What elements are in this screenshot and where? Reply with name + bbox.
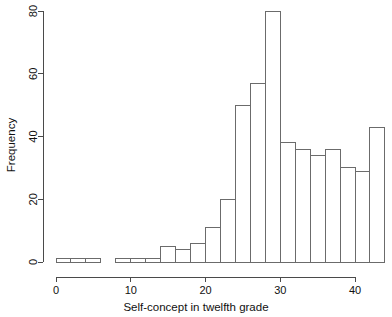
histogram-bar bbox=[86, 259, 101, 262]
histogram-bar bbox=[176, 249, 191, 262]
histogram-bar bbox=[250, 83, 265, 262]
histogram-bar bbox=[295, 149, 310, 262]
histogram-bar bbox=[355, 171, 370, 262]
histogram-bar bbox=[370, 127, 385, 262]
y-axis-title: Frequency bbox=[5, 118, 17, 173]
histogram-bar bbox=[280, 143, 295, 262]
y-tick-label: 20 bbox=[27, 193, 39, 205]
histogram-svg: 020406080 010203040 Self-concept in twel… bbox=[0, 0, 392, 317]
histogram-bar bbox=[310, 155, 325, 262]
histogram-bar bbox=[161, 246, 176, 262]
bars-layer bbox=[56, 11, 385, 262]
y-axis-ticks: 020406080 bbox=[27, 5, 43, 265]
y-tick-label: 40 bbox=[27, 130, 39, 142]
histogram-bar bbox=[71, 259, 86, 262]
x-axis-ticks: 010203040 bbox=[53, 277, 361, 296]
histogram-bar bbox=[220, 199, 235, 262]
y-tick-label: 80 bbox=[27, 5, 39, 17]
histogram-bar bbox=[235, 105, 250, 262]
x-tick-label: 10 bbox=[125, 284, 137, 296]
histogram-bar bbox=[325, 149, 340, 262]
x-axis-title: Self-concept in twelfth grade bbox=[123, 301, 268, 313]
histogram-bar bbox=[340, 168, 355, 262]
x-tick-label: 0 bbox=[53, 284, 59, 296]
histogram-bar bbox=[206, 227, 221, 262]
histogram-bar bbox=[131, 259, 146, 262]
y-tick-label: 60 bbox=[27, 68, 39, 80]
x-tick-label: 30 bbox=[274, 284, 286, 296]
y-tick-label: 0 bbox=[27, 259, 39, 265]
histogram-bar bbox=[116, 259, 131, 262]
histogram-bar bbox=[146, 259, 161, 262]
histogram-figure: 020406080 010203040 Self-concept in twel… bbox=[0, 0, 392, 317]
histogram-bar bbox=[56, 259, 71, 262]
histogram-bar bbox=[191, 243, 206, 262]
histogram-bar bbox=[265, 11, 280, 262]
x-tick-label: 20 bbox=[199, 284, 211, 296]
x-tick-label: 40 bbox=[349, 284, 361, 296]
